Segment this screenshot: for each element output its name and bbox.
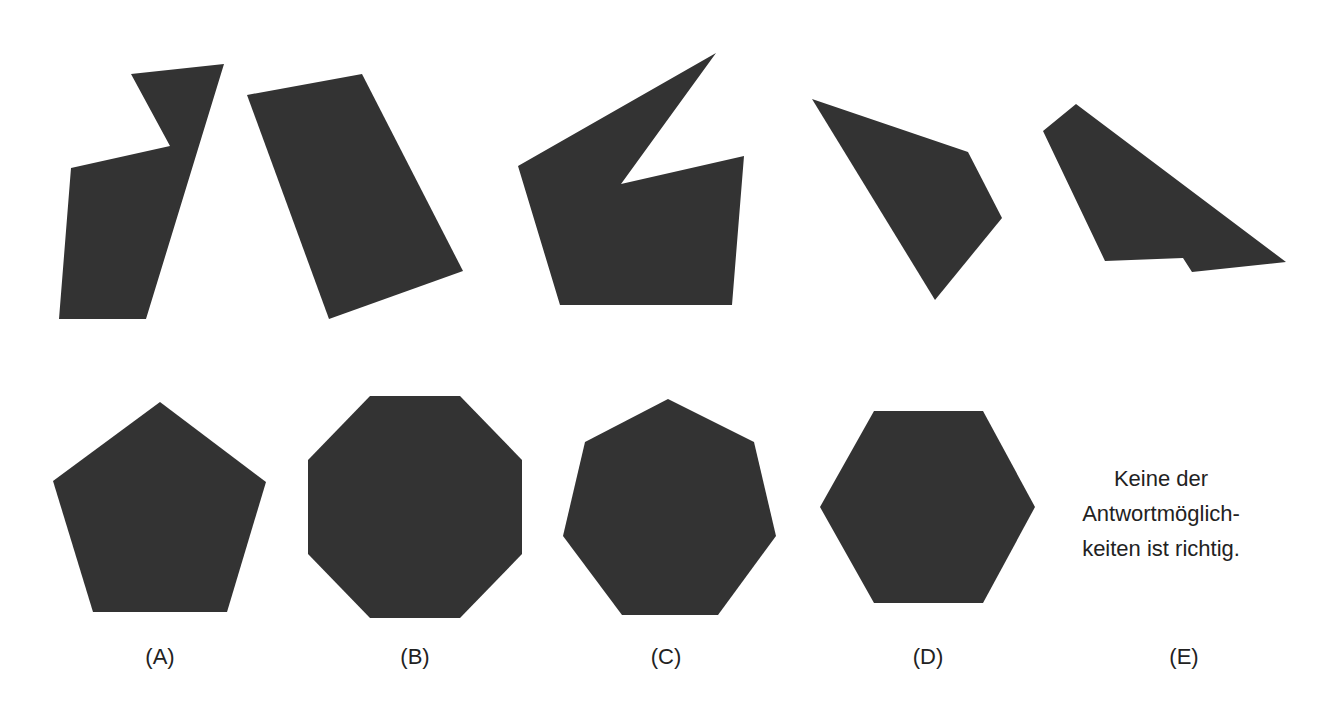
option-e-line-3: keiten ist richtig.: [1082, 531, 1240, 566]
option-b-octagon[interactable]: [308, 396, 522, 618]
option-a-label[interactable]: (A): [145, 645, 174, 669]
option-d-hexagon[interactable]: [820, 411, 1035, 603]
option-d-label[interactable]: (D): [913, 645, 944, 669]
piece-1: [59, 64, 224, 319]
option-c-heptagon[interactable]: [563, 399, 776, 615]
option-c-label[interactable]: (C): [651, 645, 682, 669]
pieces-group: [59, 53, 1286, 319]
piece-5: [1043, 104, 1286, 272]
puzzle-canvas: [0, 0, 1343, 717]
piece-2: [247, 74, 463, 319]
option-b-label[interactable]: (B): [400, 645, 429, 669]
options-group: [53, 396, 1035, 618]
piece-3: [518, 53, 744, 305]
option-e-line-2: Antwortmöglich-: [1082, 496, 1240, 531]
option-e-text[interactable]: Keine der Antwortmöglich- keiten ist ric…: [1082, 461, 1240, 566]
piece-4: [812, 99, 1002, 300]
option-e-line-1: Keine der: [1082, 461, 1240, 496]
option-a-pentagon[interactable]: [53, 402, 266, 612]
option-e-label[interactable]: (E): [1169, 645, 1198, 669]
